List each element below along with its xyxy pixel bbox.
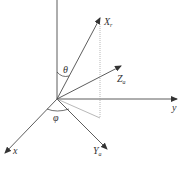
xr-label: Xr bbox=[103, 16, 113, 28]
y-axis-label: y bbox=[171, 102, 177, 113]
x-axis-label: x bbox=[12, 145, 18, 156]
ya-vector bbox=[57, 99, 107, 149]
projection-ground bbox=[57, 99, 100, 118]
coordinate-diagram: Xr Za Ya y x θ φ bbox=[0, 0, 180, 169]
phi-arc bbox=[47, 109, 69, 111]
theta-label: θ bbox=[63, 64, 68, 75]
za-label: Za bbox=[117, 73, 126, 85]
phi-label: φ bbox=[53, 112, 59, 123]
xr-vector bbox=[57, 18, 100, 99]
ya-label: Ya bbox=[93, 145, 102, 157]
